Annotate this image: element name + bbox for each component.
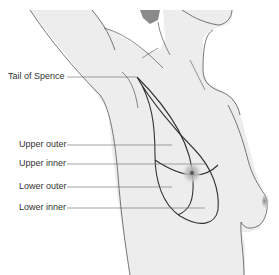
breast-quadrant-diagram: Tail of Spence Upper outer Upper inner L… [0, 0, 279, 275]
label-upper-inner: Upper inner [19, 158, 66, 169]
label-lower-outer: Lower outer [19, 181, 67, 192]
nipple-shade [262, 194, 270, 208]
label-upper-outer: Upper outer [19, 139, 67, 150]
label-tail-of-spence: Tail of Spence [8, 71, 65, 82]
anatomy-illustration [0, 0, 279, 275]
label-lower-inner: Lower inner [19, 202, 66, 213]
nipple-marker [190, 171, 194, 175]
hair-shape [140, 10, 160, 24]
